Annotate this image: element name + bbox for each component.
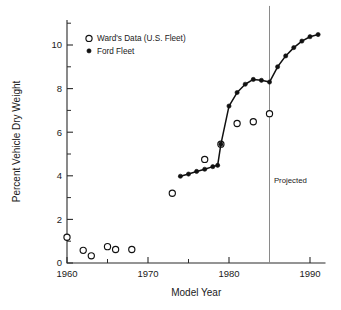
legend-entry-label: Ford Fleet bbox=[97, 47, 135, 56]
chart-plot-area: 02468101960197019801990Model YearPercent… bbox=[0, 0, 341, 310]
data-point-filled bbox=[178, 174, 182, 178]
data-point-filled bbox=[235, 90, 239, 94]
y-axis-tick-label: 10 bbox=[51, 39, 62, 50]
data-point-open bbox=[64, 234, 70, 240]
x-axis-tick-label: 1960 bbox=[56, 268, 77, 279]
data-series-layer bbox=[64, 32, 320, 258]
data-point-open bbox=[104, 244, 110, 250]
data-point-filled bbox=[227, 104, 231, 108]
data-point-filled bbox=[292, 46, 296, 50]
data-point-filled bbox=[195, 169, 199, 173]
legend-entry-label: Ward's Data (U.S. Fleet) bbox=[97, 34, 186, 43]
data-point-filled bbox=[243, 82, 247, 86]
legend-marker-filled-circle bbox=[87, 49, 91, 53]
y-axis-tick-label: 4 bbox=[57, 170, 62, 181]
data-point-open bbox=[202, 156, 208, 162]
series-line-path bbox=[180, 35, 318, 177]
data-point-open bbox=[234, 120, 240, 126]
data-point-open bbox=[129, 246, 135, 252]
series-1 bbox=[64, 111, 273, 259]
chart-legend: Ward's Data (U.S. Fleet)Ford Fleet bbox=[86, 34, 186, 56]
data-point-filled bbox=[267, 80, 271, 84]
y-axis-tick-label: 0 bbox=[57, 257, 62, 268]
series-2 bbox=[178, 32, 320, 178]
data-point-filled bbox=[316, 32, 320, 36]
projected-annotation-label: Projected bbox=[274, 176, 307, 185]
data-point-filled bbox=[259, 78, 263, 82]
data-point-filled bbox=[276, 65, 280, 69]
data-point-open bbox=[88, 253, 94, 259]
x-axis-tick-label: 1990 bbox=[299, 268, 320, 279]
data-point-filled bbox=[216, 163, 220, 167]
data-point-filled bbox=[203, 167, 207, 171]
data-point-filled bbox=[211, 165, 215, 169]
chart-annotations: Projected bbox=[274, 176, 307, 185]
axis-labels-layer: 02468101960197019801990Model YearPercent… bbox=[11, 39, 321, 298]
data-point-filled bbox=[219, 142, 223, 146]
chart-container: 02468101960197019801990Model YearPercent… bbox=[0, 0, 341, 310]
data-point-open bbox=[169, 190, 175, 196]
x-axis-title: Model Year bbox=[171, 287, 222, 298]
y-axis-tick-label: 6 bbox=[57, 127, 62, 138]
legend-marker-open-circle bbox=[86, 35, 92, 41]
y-axis-tick-label: 2 bbox=[57, 214, 62, 225]
data-point-filled bbox=[308, 35, 312, 39]
data-point-open bbox=[266, 111, 272, 117]
y-axis-tick-label: 8 bbox=[57, 83, 62, 94]
data-point-filled bbox=[300, 39, 304, 43]
data-point-filled bbox=[186, 172, 190, 176]
data-point-open bbox=[80, 247, 86, 253]
y-axis-title: Percent Vehicle Dry Weight bbox=[11, 80, 22, 202]
x-axis-tick-label: 1980 bbox=[218, 268, 239, 279]
x-axis-tick-label: 1970 bbox=[137, 268, 158, 279]
data-point-open bbox=[250, 119, 256, 125]
data-point-open bbox=[113, 246, 119, 252]
data-point-filled bbox=[251, 77, 255, 81]
data-point-filled bbox=[284, 54, 288, 58]
